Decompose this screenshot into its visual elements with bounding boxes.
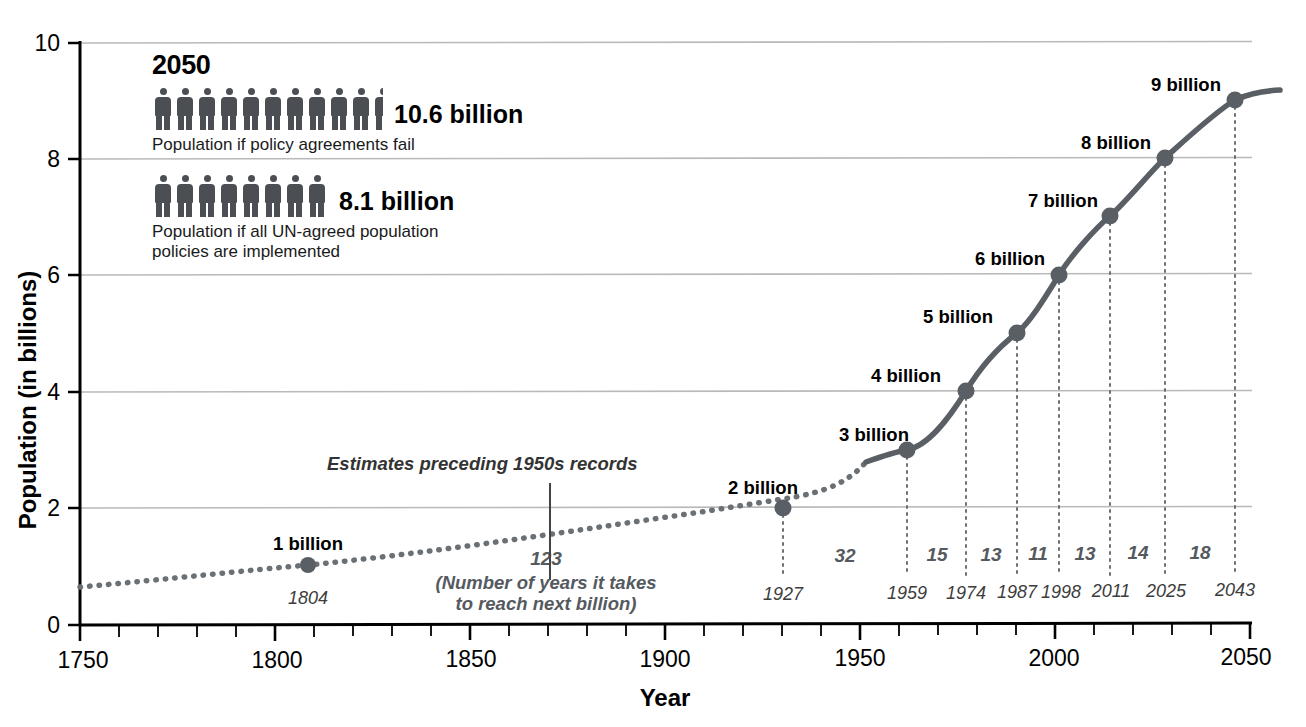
- gap-11: 11: [1028, 543, 1048, 564]
- person-icon: [174, 175, 196, 217]
- year-1974: 1974: [946, 583, 986, 603]
- y-axis-title: Population (in billions): [14, 271, 41, 530]
- person-icon: [284, 175, 306, 217]
- person-icon: [196, 175, 218, 217]
- y-tick-10: 10: [34, 30, 60, 56]
- x-tick-2050: 2050: [1220, 644, 1271, 670]
- scenario-value-policy-fail: 10.6 billion: [394, 102, 523, 130]
- gap-labels: 123 32 15 13 11 13 14 18: [530, 542, 1211, 569]
- person-icon: [196, 88, 218, 130]
- label-3-billion: 3 billion: [839, 424, 909, 445]
- gap-13b: 13: [1074, 543, 1096, 564]
- scenario-caption-policy-fail: Population if policy agreements fail: [152, 135, 482, 155]
- gridline-2: [80, 507, 1252, 509]
- person-icon: [152, 175, 174, 217]
- y-axis: [68, 41, 80, 625]
- person-icon: [218, 175, 240, 217]
- marker-6-billion: [1051, 267, 1068, 284]
- marker-7-billion: [1102, 208, 1119, 225]
- gap-note-line1: (Number of years it takes: [435, 572, 656, 593]
- year-2011: 2011: [1091, 581, 1131, 601]
- person-half-icon: [372, 88, 383, 130]
- gap-13a: 13: [980, 544, 1002, 565]
- y-tick-0: 0: [47, 612, 60, 638]
- x-tick-2000: 2000: [1028, 645, 1079, 671]
- person-icon: [306, 88, 328, 130]
- pictogram-group-10-6: [152, 88, 383, 130]
- label-9-billion: 9 billion: [1151, 74, 1221, 95]
- year-1987: 1987: [997, 582, 1038, 602]
- scenario-value-policy-implemented: 8.1 billion: [339, 189, 454, 217]
- label-6-billion: 6 billion: [975, 248, 1045, 269]
- x-tick-1900: 1900: [639, 646, 690, 672]
- person-icon: [174, 88, 196, 130]
- person-icon: [262, 175, 284, 217]
- scenario-row-policy-implemented: 8.1 billion: [152, 175, 622, 217]
- marker-5-billion: [1009, 325, 1026, 342]
- scenario-caption-policy-implemented: Population if all UN-agreed population p…: [152, 222, 482, 262]
- marker-4-billion: [958, 383, 975, 400]
- y-tick-2: 2: [47, 495, 60, 521]
- label-2-billion: 2 billion: [728, 477, 798, 498]
- x-tick-1800: 1800: [251, 647, 302, 673]
- x-tick-1850: 1850: [445, 646, 496, 672]
- x-axis: [80, 623, 1252, 641]
- gap-note-line2: to reach next billion): [456, 593, 637, 614]
- year-1959: 1959: [887, 583, 927, 603]
- x-tick-1750: 1750: [57, 647, 108, 673]
- year-1998: 1998: [1041, 582, 1081, 602]
- y-tick-8: 8: [47, 146, 60, 172]
- label-1-billion: 1 billion: [273, 533, 343, 554]
- year-1804: 1804: [288, 588, 328, 608]
- year-2025: 2025: [1145, 581, 1187, 601]
- person-icon: [262, 88, 284, 130]
- person-icon: [240, 88, 262, 130]
- person-icon: [350, 88, 372, 130]
- pictogram-group-8-1: [152, 175, 328, 217]
- gap-123: 123: [530, 548, 562, 569]
- estimates-annotation: Estimates preceding 1950s records: [327, 453, 638, 474]
- scenario-inset-panel: 2050 10.6 billion Population if policy a…: [152, 52, 622, 282]
- gap-14: 14: [1127, 542, 1149, 563]
- person-icon: [328, 88, 350, 130]
- label-7-billion: 7 billion: [1028, 190, 1098, 211]
- gap-15: 15: [926, 544, 948, 565]
- person-icon: [284, 88, 306, 130]
- gap-18: 18: [1189, 542, 1211, 563]
- year-2043: 2043: [1214, 580, 1255, 600]
- marker-1-billion: [300, 557, 316, 573]
- x-axis-title: Year: [640, 684, 691, 711]
- scenario-row-policy-fail: 10.6 billion: [152, 88, 622, 130]
- label-5-billion: 5 billion: [923, 306, 993, 327]
- y-tick-4: 4: [47, 379, 60, 405]
- gap-32: 32: [834, 545, 856, 566]
- milestone-year-labels: 1804 1927 1959 1974 1987 1998 2011 2025 …: [288, 580, 1255, 608]
- y-tick-6: 6: [47, 262, 60, 288]
- person-icon: [218, 88, 240, 130]
- label-4-billion: 4 billion: [871, 365, 941, 386]
- label-8-billion: 8 billion: [1081, 132, 1151, 153]
- marker-2-billion: [775, 500, 792, 517]
- gridline-10: [80, 42, 1252, 44]
- marker-8-billion: [1157, 150, 1174, 167]
- x-tick-labels: 1750 1800 1850 1900 1950 2000 2050: [57, 644, 1271, 673]
- series-line-recorded: [866, 90, 1280, 462]
- year-1927: 1927: [763, 584, 804, 604]
- person-icon: [152, 88, 174, 130]
- person-icon: [306, 175, 328, 217]
- inset-year-heading: 2050: [152, 52, 622, 79]
- person-icon: [240, 175, 262, 217]
- gridline-4: [80, 391, 1252, 393]
- marker-9-billion: [1227, 92, 1244, 109]
- x-tick-1950: 1950: [834, 645, 885, 671]
- chart-canvas: 10 8 6 4 2 0 Population (in billions): [0, 0, 1306, 727]
